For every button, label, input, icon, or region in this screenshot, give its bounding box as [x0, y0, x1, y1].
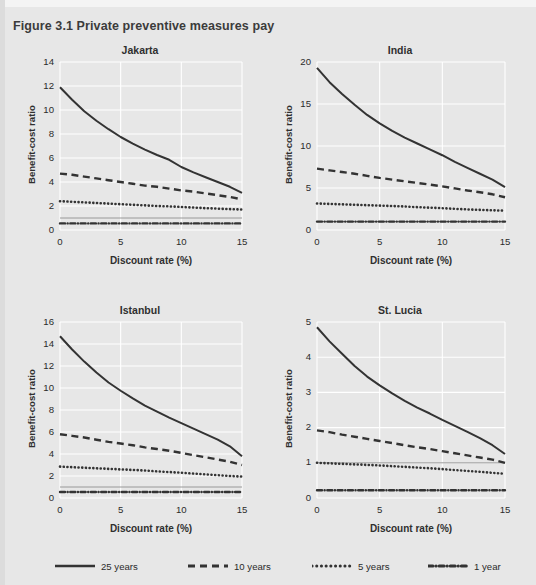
legend-item-1-year[interactable]: 1 year — [428, 558, 501, 574]
x-axis-title: Discount rate (%) — [60, 255, 242, 266]
legend-item-5-years[interactable]: 5 years — [312, 558, 389, 574]
solid-line-icon — [55, 561, 95, 571]
y-tick-label: 12 — [26, 80, 54, 91]
y-axis-title: Benefit-cost ratio — [283, 369, 294, 448]
y-tick-label: 0 — [26, 224, 54, 235]
x-tick-label: 0 — [303, 236, 331, 247]
x-tick-label: 10 — [428, 236, 456, 247]
x-axis-title: Discount rate (%) — [317, 523, 505, 534]
legend-label: 10 years — [234, 561, 271, 572]
y-tick-label: 5 — [283, 316, 311, 327]
y-tick-label: 2 — [26, 470, 54, 481]
series-line-10-years — [317, 430, 505, 462]
dotted-line-icon — [312, 561, 352, 571]
y-tick-label: 14 — [26, 56, 54, 67]
x-tick-label: 10 — [167, 504, 195, 515]
x-axis-title: Discount rate (%) — [317, 255, 505, 266]
chart-panel-istanbul: Istanbul0246810121416051015Benefit-cost … — [18, 304, 262, 544]
y-tick-label: 1 — [283, 456, 311, 467]
top-edge-strip — [0, 0, 536, 7]
x-tick-label: 15 — [491, 504, 519, 515]
y-tick-label: 4 — [26, 448, 54, 459]
legend-item-10-years[interactable]: 10 years — [188, 558, 271, 574]
chart-panel-st-lucia: St. Lucia012345051015Benefit-cost ratioD… — [275, 304, 525, 544]
x-tick-label: 5 — [366, 236, 394, 247]
x-tick-label: 5 — [107, 236, 135, 247]
figure-title: Figure 3.1 Private preventive measures p… — [13, 19, 274, 33]
x-tick-label: 15 — [491, 236, 519, 247]
x-tick-label: 15 — [228, 504, 256, 515]
y-tick-label: 2 — [26, 200, 54, 211]
series-line-5-years — [60, 201, 242, 209]
legend-label: 5 years — [358, 561, 389, 572]
x-tick-label: 5 — [366, 504, 394, 515]
x-tick-label: 15 — [228, 236, 256, 247]
y-axis-title: Benefit-cost ratio — [26, 105, 37, 184]
chart-panel-jakarta: Jakarta02468101214051015Benefit-cost rat… — [18, 44, 262, 276]
x-tick-label: 10 — [428, 504, 456, 515]
y-tick-label: 14 — [26, 338, 54, 349]
y-tick-label: 0 — [283, 492, 311, 503]
legend-label: 1 year — [474, 561, 501, 572]
left-edge-strip — [0, 0, 5, 585]
series-line-5-years — [60, 467, 242, 477]
x-tick-label: 0 — [46, 504, 74, 515]
figure-container: Figure 3.1 Private preventive measures p… — [0, 0, 536, 585]
x-tick-label: 10 — [167, 236, 195, 247]
chart-panel-india: India05101520051015Benefit-cost ratioDis… — [275, 44, 525, 276]
y-tick-label: 20 — [283, 56, 311, 67]
dashdot-line-icon — [428, 561, 468, 571]
x-tick-label: 5 — [107, 504, 135, 515]
y-tick-label: 0 — [283, 224, 311, 235]
series-line-5-years — [317, 204, 505, 211]
x-axis-title: Discount rate (%) — [60, 523, 242, 534]
series-line-5-years — [317, 463, 505, 474]
chart-legend: 25 years10 years5 years1 year — [0, 552, 536, 580]
legend-item-25-years[interactable]: 25 years — [55, 558, 138, 574]
dashed-line-icon — [188, 561, 228, 571]
series-line-10-years — [60, 174, 242, 200]
x-tick-label: 0 — [303, 504, 331, 515]
x-tick-label: 0 — [46, 236, 74, 247]
y-tick-label: 0 — [26, 492, 54, 503]
y-tick-label: 4 — [283, 351, 311, 362]
legend-label: 25 years — [101, 561, 138, 572]
y-axis-title: Benefit-cost ratio — [283, 105, 294, 184]
series-line-25-years — [317, 68, 505, 187]
y-tick-label: 16 — [26, 316, 54, 327]
y-axis-title: Benefit-cost ratio — [26, 369, 37, 448]
